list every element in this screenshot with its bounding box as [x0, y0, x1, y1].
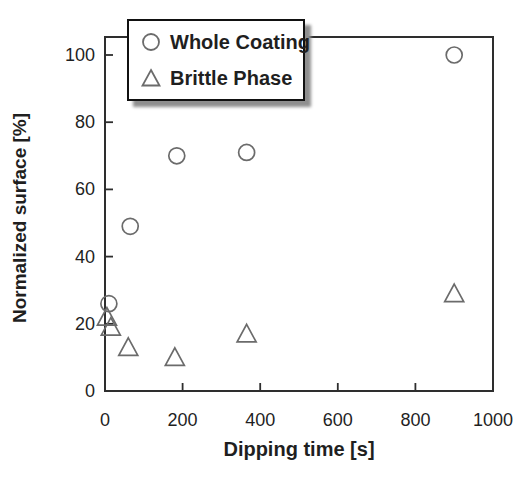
y-tick-label: 80	[75, 112, 95, 132]
y-tick-label: 0	[85, 381, 95, 401]
legend-item-whole-coating: Whole Coating	[139, 30, 293, 54]
data-point-whole-coating	[446, 47, 462, 63]
x-tick-label: 1000	[473, 410, 513, 430]
triangle-marker-icon	[139, 66, 163, 90]
y-tick-label: 60	[75, 179, 95, 199]
circle-marker-icon	[139, 30, 163, 54]
data-point-brittle-phase	[445, 284, 464, 302]
data-point-brittle-phase	[165, 348, 184, 366]
y-tick-label: 20	[75, 314, 95, 334]
legend: Whole Coating Brittle Phase	[127, 19, 305, 101]
x-tick-label: 600	[323, 410, 353, 430]
y-tick-label: 100	[65, 45, 95, 65]
x-axis-title: Dipping time [s]	[105, 438, 493, 461]
legend-label-brittle-phase: Brittle Phase	[170, 67, 292, 90]
y-axis-title: Normalized surface [%]	[9, 113, 31, 323]
y-tick-label: 40	[75, 247, 95, 267]
x-tick-label: 800	[400, 410, 430, 430]
data-point-brittle-phase	[119, 338, 138, 356]
data-point-brittle-phase	[237, 324, 256, 342]
legend-label-whole-coating: Whole Coating	[170, 31, 310, 54]
data-point-whole-coating	[169, 148, 185, 164]
x-tick-label: 200	[168, 410, 198, 430]
x-tick-label: 400	[245, 410, 275, 430]
legend-item-brittle-phase: Brittle Phase	[139, 66, 293, 90]
x-tick-label: 0	[100, 410, 110, 430]
figure: 02004006008001000020406080100 Normalized…	[0, 0, 531, 486]
data-point-whole-coating	[101, 296, 117, 312]
data-point-whole-coating	[122, 218, 138, 234]
data-point-whole-coating	[239, 144, 255, 160]
